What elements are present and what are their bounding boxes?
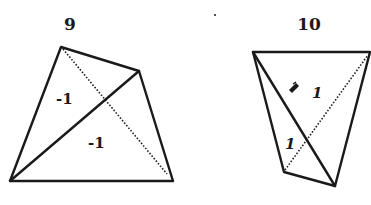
quadrilateral-10 [253, 52, 370, 186]
label-one-lower: 1 [285, 135, 295, 153]
ink-blot-mark [290, 82, 298, 92]
figure-number-10: 10 [297, 14, 321, 34]
label-minus-one-lower: -1 [88, 134, 105, 152]
diagram-canvas: 9 -1 -1 10 1 1 [0, 0, 371, 205]
figure-9: 9 -1 -1 [10, 14, 173, 181]
figure-10: 10 1 1 [253, 14, 370, 186]
dotted-diagonal-10 [285, 55, 368, 170]
label-one-upper: 1 [312, 84, 322, 102]
label-minus-one-upper: -1 [56, 90, 73, 108]
ink-speck [214, 14, 216, 16]
figure-number-9: 9 [64, 14, 76, 34]
solid-diagonal-9 [10, 71, 139, 181]
